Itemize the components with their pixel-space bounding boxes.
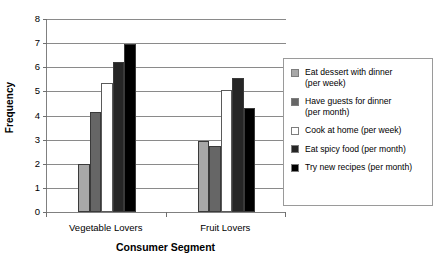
bar xyxy=(232,78,244,212)
bar xyxy=(90,112,102,212)
bar-chart: Frequency 012345678 Vegetable LoversFrui… xyxy=(0,0,444,276)
legend-label: Eat dessert with dinner(per week) xyxy=(305,67,392,88)
x-category-label: Fruit Lovers xyxy=(200,222,250,233)
bar xyxy=(198,141,210,212)
y-axis-title: Frequency xyxy=(0,0,20,215)
bar xyxy=(221,90,233,212)
legend-item[interactable]: Have guests for dinner(per month) xyxy=(291,96,426,117)
plot-area xyxy=(46,19,285,212)
x-category-label: Vegetable Lovers xyxy=(69,222,142,233)
y-tick-label: 6 xyxy=(24,62,40,72)
bar xyxy=(244,108,256,212)
x-axis-title: Consumer Segment xyxy=(46,241,285,253)
y-axis-title-text: Frequency xyxy=(5,82,16,133)
y-tick-label: 5 xyxy=(24,86,40,96)
bar xyxy=(124,44,136,212)
y-tick-label: 8 xyxy=(24,14,40,24)
bar xyxy=(113,62,125,212)
bar xyxy=(78,164,90,212)
x-tick-mark xyxy=(166,212,167,217)
legend-label: Eat spicy food (per month) xyxy=(305,144,406,155)
legend-swatch-icon xyxy=(291,98,299,106)
y-axis-tick-labels: 012345678 xyxy=(22,0,40,276)
x-tick-mark xyxy=(46,212,47,217)
bar xyxy=(101,83,113,212)
y-tick-label: 1 xyxy=(24,183,40,193)
y-tick-label: 2 xyxy=(24,159,40,169)
chart-legend: Eat dessert with dinner(per week)Have gu… xyxy=(283,58,433,206)
legend-swatch-icon xyxy=(291,145,299,153)
y-tick-label: 4 xyxy=(24,111,40,121)
legend-item[interactable]: Eat spicy food (per month) xyxy=(291,144,426,155)
x-tick-mark xyxy=(285,212,286,217)
y-tick-label: 3 xyxy=(24,135,40,145)
legend-item[interactable]: Cook at home (per week) xyxy=(291,125,426,136)
legend-label-line2: (per month) xyxy=(305,107,391,118)
y-tick-label: 7 xyxy=(24,38,40,48)
legend-item[interactable]: Eat dessert with dinner(per week) xyxy=(291,67,426,88)
bars-layer xyxy=(47,19,286,212)
y-tick-label: 0 xyxy=(24,207,40,217)
legend-label: Try new recipes (per month) xyxy=(305,162,412,173)
legend-swatch-icon xyxy=(291,69,299,77)
gridline xyxy=(47,212,286,213)
bar xyxy=(209,146,221,212)
legend-label: Have guests for dinner(per month) xyxy=(305,96,391,117)
legend-swatch-icon xyxy=(291,127,299,135)
legend-label: Cook at home (per week) xyxy=(305,125,401,136)
legend-item[interactable]: Try new recipes (per month) xyxy=(291,162,426,173)
legend-swatch-icon xyxy=(291,164,299,172)
legend-label-line2: (per week) xyxy=(305,78,392,89)
